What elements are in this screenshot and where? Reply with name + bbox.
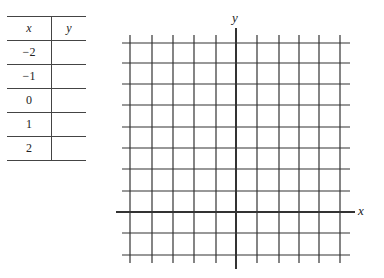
y-axis-label: y <box>232 10 238 26</box>
x-axis-label: x <box>358 203 364 219</box>
coordinate-grid <box>0 0 384 278</box>
